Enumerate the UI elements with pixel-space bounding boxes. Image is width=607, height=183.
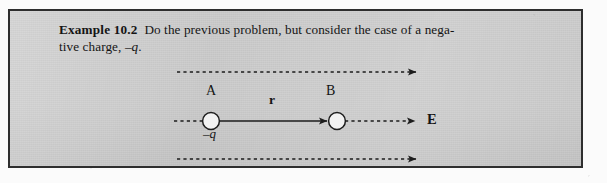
charge-value-label: –q [203, 126, 216, 142]
example-box: Example 10.2 Do the previous problem, bu… [8, 9, 583, 168]
electric-field-negative-charge-diagram: A B r E –q [10, 11, 585, 166]
charge-b-label: B [326, 83, 335, 99]
field-label-e: E [427, 111, 437, 128]
charge-b-circle [329, 113, 346, 130]
page-canvas: Example 10.2 Do the previous problem, bu… [0, 0, 607, 183]
distance-label-r: r [269, 92, 275, 108]
charge-a-label: A [206, 83, 216, 99]
